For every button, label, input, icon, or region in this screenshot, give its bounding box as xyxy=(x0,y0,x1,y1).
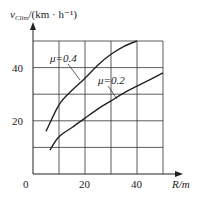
x-axis-label: R/m xyxy=(171,178,190,190)
annotation-mu-04-leader xyxy=(68,64,80,80)
y-axis-label-sub: Clim xyxy=(15,14,29,22)
annotation-mu-02: μ=0.2 xyxy=(97,74,125,86)
annotation-mu-02-leader xyxy=(108,86,117,99)
x-tick-0: 0 xyxy=(23,178,29,190)
annotation-mu-04: μ=0.4 xyxy=(49,52,77,64)
y-tick-20: 20 xyxy=(12,115,24,127)
x-tick-40: 40 xyxy=(131,178,143,190)
x-axis-arrow-icon xyxy=(175,171,183,177)
y-tick-40: 40 xyxy=(12,62,24,74)
y-axis-label: vClim/(km · h⁻¹) xyxy=(10,8,77,22)
y-axis-arrow-icon xyxy=(30,22,36,30)
x-tick-20: 20 xyxy=(79,178,91,190)
y-axis-label-unit: /(km · h⁻¹) xyxy=(29,8,78,21)
chart: vClim/(km · h⁻¹) 20 40 0 20 40 R/m μ=0.4… xyxy=(0,0,203,202)
axes xyxy=(30,22,183,177)
